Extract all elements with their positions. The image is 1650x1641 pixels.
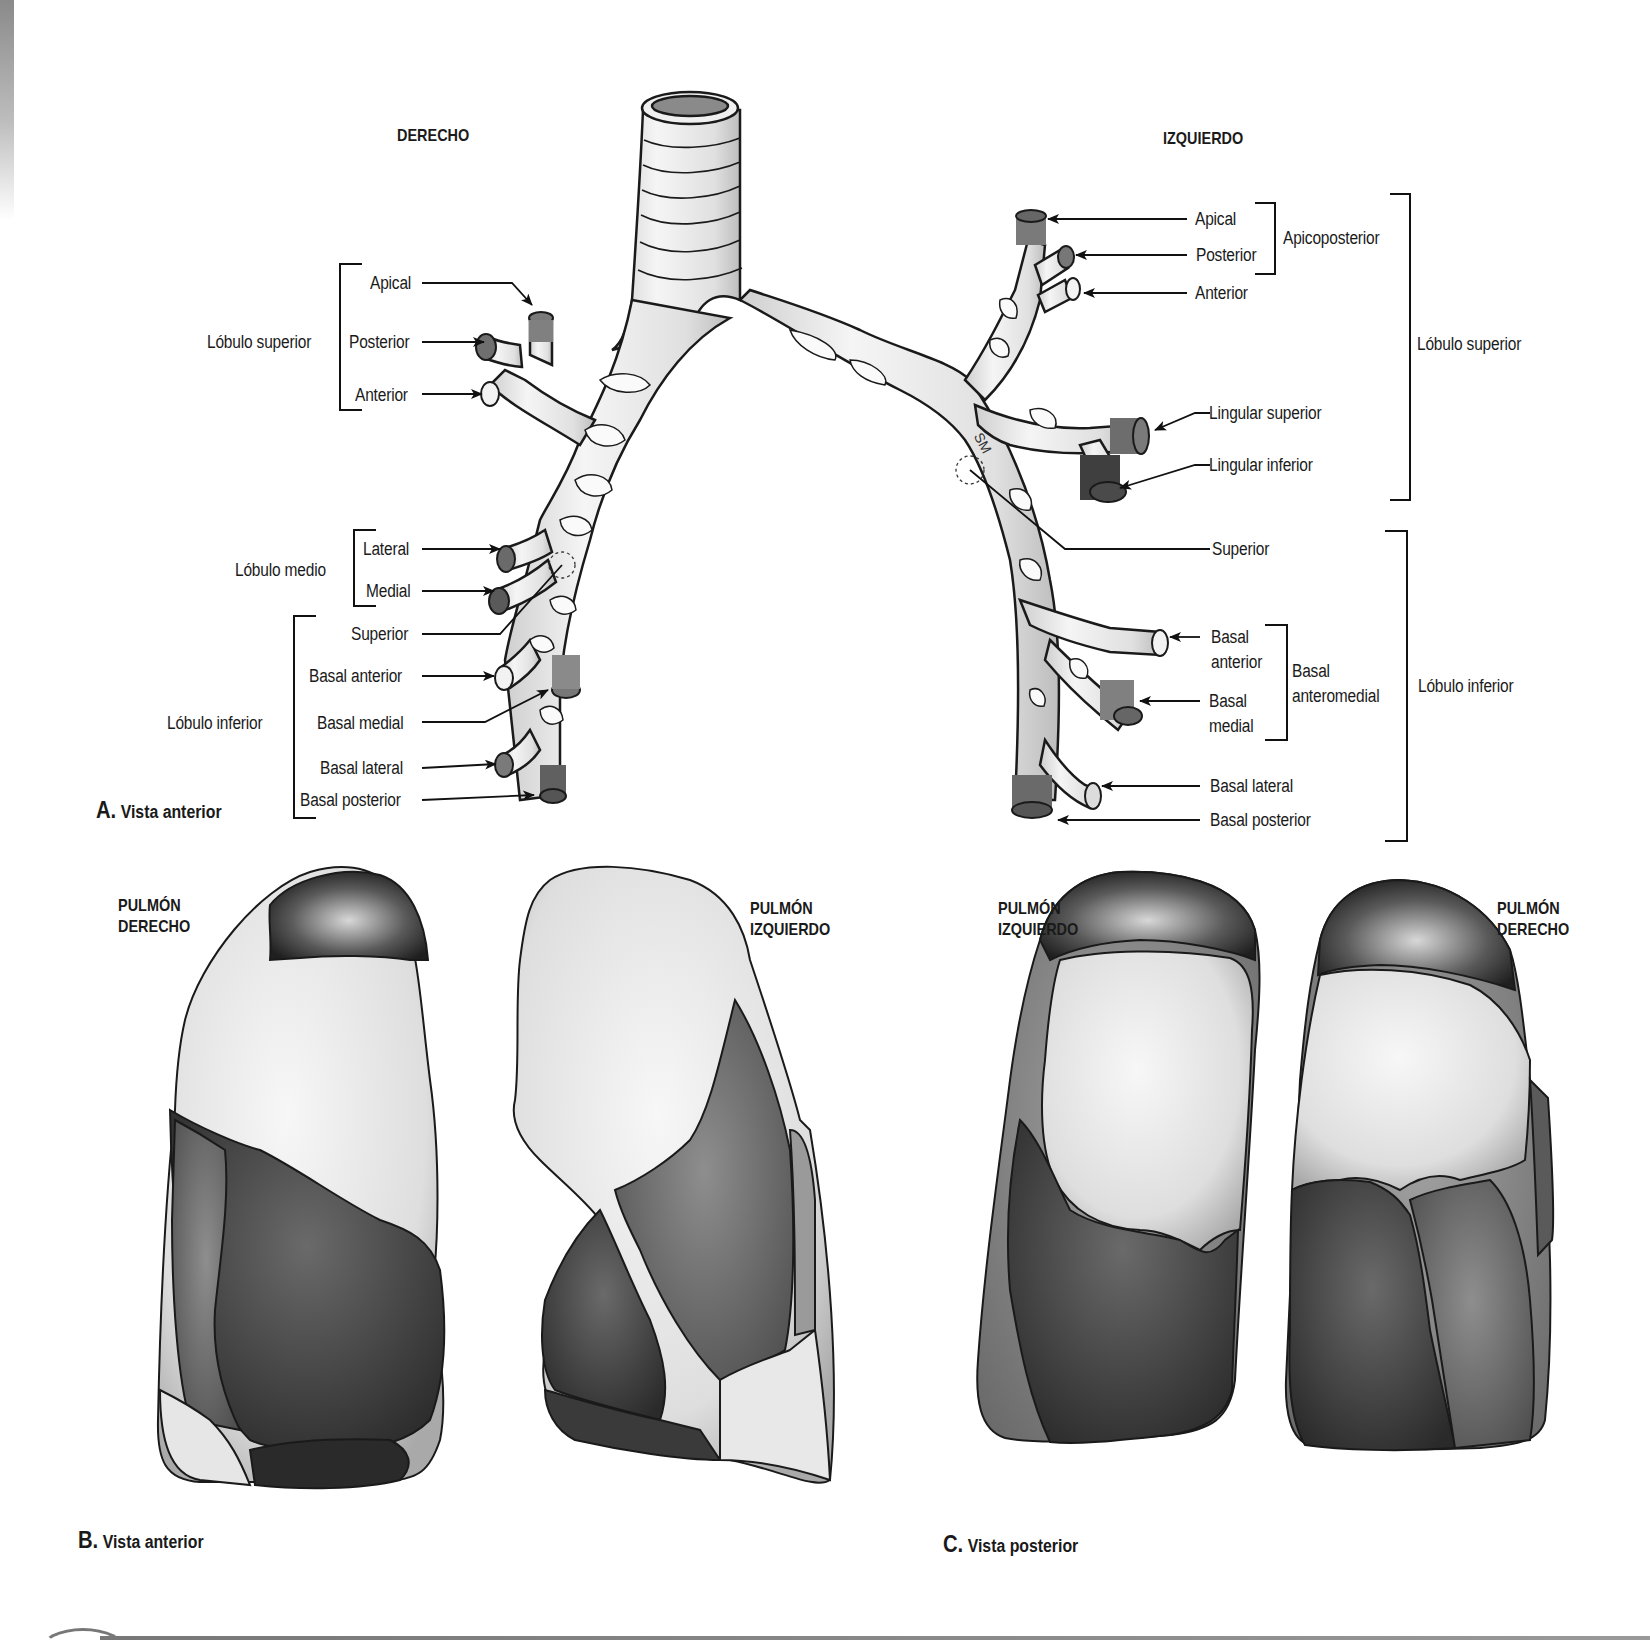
- label-right-basal-anterior: Basal anterior: [309, 666, 402, 686]
- label-left-lobe-inferior: Lóbulo inferior: [1418, 676, 1514, 696]
- caption-letter-c: C.: [943, 1531, 963, 1557]
- right-bronchial-tree: [484, 300, 730, 800]
- panel-b-right-lung: [158, 867, 444, 1488]
- label-left-lingular-inferior: Lingular inferior: [1209, 455, 1313, 475]
- left-bronchial-tree: [740, 240, 1160, 808]
- caption-text-b: Vista anterior: [103, 1532, 204, 1552]
- anatomy-illustration: [0, 0, 1650, 1641]
- label-c-right-lung-1: PULMÓN: [1497, 898, 1569, 919]
- caption-letter-b: B.: [78, 1527, 98, 1553]
- label-c-left-lung: PULMÓN IZQUIERDO: [998, 898, 1078, 940]
- header-izquierdo: IZQUIERDO: [1163, 128, 1243, 149]
- label-left-anterior: Anterior: [1195, 283, 1248, 303]
- label-right-apical: Apical: [370, 273, 411, 293]
- label-left-posterior: Posterior: [1196, 245, 1256, 265]
- label-right-lobe-inferior: Lóbulo inferior: [167, 713, 263, 733]
- caption-text-a: Vista anterior: [121, 802, 222, 822]
- label-right-posterior: Posterior: [349, 332, 409, 352]
- label-left-basal-medial-2: medial: [1209, 716, 1254, 736]
- label-right-basal-medial: Basal medial: [317, 713, 404, 733]
- label-left-basal-anteromedial-2: anteromedial: [1292, 686, 1379, 706]
- label-right-superior: Superior: [351, 624, 408, 644]
- caption-text-c: Vista posterior: [968, 1536, 1079, 1556]
- label-b-left-lung: PULMÓN IZQUIERDO: [750, 898, 830, 940]
- label-left-basal-anteromedial-1: Basal: [1292, 661, 1330, 681]
- caption-panel-a: A. Vista anterior: [96, 797, 222, 824]
- label-left-basal-anterior-1: Basal: [1211, 627, 1249, 647]
- label-left-lingular-superior: Lingular superior: [1209, 403, 1321, 423]
- label-left-basal-medial-1: Basal: [1209, 691, 1247, 711]
- panel-b-left-lung: [514, 867, 834, 1483]
- label-left-lobe-superior: Lóbulo superior: [1417, 334, 1521, 354]
- label-b-left-lung-1: PULMÓN: [750, 898, 830, 919]
- label-b-right-lung-1: PULMÓN: [118, 895, 190, 916]
- label-right-basal-posterior: Basal posterior: [300, 790, 401, 810]
- label-left-superior: Superior: [1212, 539, 1269, 559]
- caption-panel-c: C. Vista posterior: [943, 1531, 1078, 1558]
- label-c-right-lung: PULMÓN DERECHO: [1497, 898, 1569, 940]
- label-c-left-lung-1: PULMÓN: [998, 898, 1078, 919]
- label-right-lobe-medio: Lóbulo medio: [235, 560, 326, 580]
- label-right-anterior: Anterior: [355, 385, 408, 405]
- header-derecho: DERECHO: [397, 125, 469, 146]
- label-left-apical: Apical: [1195, 209, 1236, 229]
- caption-letter-a: A.: [96, 797, 116, 823]
- label-left-basal-lateral: Basal lateral: [1210, 776, 1293, 796]
- panel-c-right-lung: [1286, 880, 1553, 1450]
- label-left-basal-posterior: Basal posterior: [1210, 810, 1311, 830]
- label-b-right-lung-2: DERECHO: [118, 916, 190, 937]
- page-bottom-rule: [100, 1636, 1650, 1640]
- label-right-lobe-superior: Lóbulo superior: [207, 332, 311, 352]
- label-left-apicoposterior: Apicoposterior: [1283, 228, 1380, 248]
- label-c-right-lung-2: DERECHO: [1497, 919, 1569, 940]
- label-right-lateral: Lateral: [363, 539, 409, 559]
- label-b-right-lung: PULMÓN DERECHO: [118, 895, 190, 937]
- caption-panel-b: B. Vista anterior: [78, 1527, 204, 1554]
- label-left-basal-anterior-2: anterior: [1211, 652, 1262, 672]
- panel-c-left-lung: [977, 872, 1259, 1443]
- label-right-medial: Medial: [366, 581, 411, 601]
- label-b-left-lung-2: IZQUIERDO: [750, 919, 830, 940]
- label-right-basal-lateral: Basal lateral: [320, 758, 403, 778]
- label-c-left-lung-2: IZQUIERDO: [998, 919, 1078, 940]
- leader-lines-left: [1048, 219, 1210, 820]
